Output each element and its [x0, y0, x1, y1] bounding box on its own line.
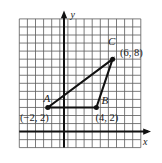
x-axis-label: x [142, 136, 148, 147]
vertex-label-c: C [108, 35, 116, 47]
vertex-label-b: B [102, 94, 109, 106]
vertex-dot-b [94, 105, 99, 110]
coord-label-a: (−2, 2) [20, 112, 49, 124]
vertex-dot-a [45, 105, 50, 110]
coord-label-c: (6, 8) [120, 47, 143, 59]
vertex-label-a: A [43, 92, 51, 104]
vertex-dot-c [110, 57, 115, 62]
figure-screenshot: nation 9 | 2 | 12 | 6 = 10 | 2 [0, 0, 162, 163]
y-axis-label: y [70, 9, 76, 20]
coordinate-plane-figure: y x A B C (−2, 2) (4, 2) (6, 8) [0, 0, 162, 163]
coord-label-b: (4, 2) [96, 112, 119, 124]
